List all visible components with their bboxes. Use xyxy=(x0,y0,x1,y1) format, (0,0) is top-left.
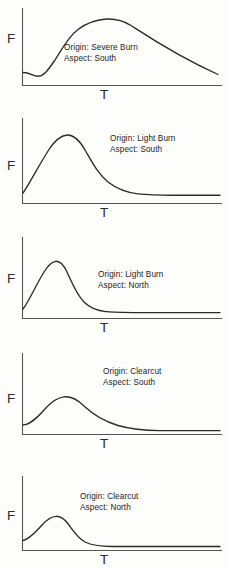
annotation-aspect: Aspect: South xyxy=(64,54,138,65)
panel-annotation: Origin: Clearcut Aspect: South xyxy=(103,367,161,388)
x-axis-label: T xyxy=(100,88,108,102)
figure-multi-panel-curves: F T Origin: Severe Burn Aspect: South F … xyxy=(0,0,229,569)
panel-annotation: Origin: Light Burn Aspect: South xyxy=(110,134,176,155)
y-axis-label: F xyxy=(7,392,15,406)
annotation-aspect: Aspect: South xyxy=(103,378,161,389)
y-axis-label: F xyxy=(7,159,15,173)
panel-clearcut-south: F T Origin: Clearcut Aspect: South xyxy=(0,345,229,455)
panel-annotation: Origin: Severe Burn Aspect: South xyxy=(64,43,138,64)
panel-light-burn-south: F T Origin: Light Burn Aspect: South xyxy=(0,112,229,224)
y-axis-label: F xyxy=(7,32,15,46)
annotation-origin: Origin: Light Burn xyxy=(98,270,164,281)
panel-2-plot xyxy=(0,112,229,224)
annotation-origin: Origin: Clearcut xyxy=(80,492,138,503)
annotation-aspect: Aspect: North xyxy=(80,503,138,514)
panel-4-plot xyxy=(0,345,229,455)
annotation-origin: Origin: Severe Burn xyxy=(64,43,138,54)
annotation-origin: Origin: Clearcut xyxy=(103,367,161,378)
annotation-origin: Origin: Light Burn xyxy=(110,134,176,145)
panel-clearcut-north: F T Origin: Clearcut Aspect: North xyxy=(0,468,229,569)
panel-5-plot xyxy=(0,468,229,569)
panel-light-burn-north: F T Origin: Light Burn Aspect: North xyxy=(0,232,229,342)
panel-severe-burn-south: F T Origin: Severe Burn Aspect: South xyxy=(0,0,229,105)
x-axis-label: T xyxy=(100,206,108,220)
y-axis-label: F xyxy=(7,272,15,286)
panel-annotation: Origin: Light Burn Aspect: North xyxy=(98,270,164,291)
panel-annotation: Origin: Clearcut Aspect: North xyxy=(80,492,138,513)
annotation-aspect: Aspect: South xyxy=(110,145,176,156)
x-axis-label: T xyxy=(100,437,108,451)
y-axis-label: F xyxy=(7,509,15,523)
curve-path xyxy=(23,397,220,431)
curve-path xyxy=(23,516,220,546)
annotation-aspect: Aspect: North xyxy=(98,281,164,292)
x-axis-label: T xyxy=(100,321,108,335)
x-axis-label: T xyxy=(100,553,108,567)
